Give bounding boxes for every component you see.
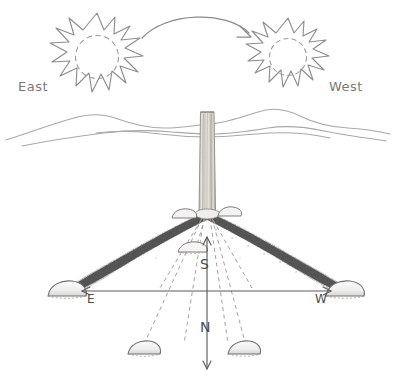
shadow-stick-compass-diagram: East West E W S N — [0, 0, 395, 388]
stone-icon-south-left — [128, 341, 161, 356]
sun-icon-west — [246, 18, 329, 87]
label-compass-south: S — [200, 256, 209, 272]
ray-inner-right — [210, 218, 228, 344]
diagram-canvas — [0, 0, 395, 388]
stone-icon-near-base-left — [172, 209, 197, 218]
arc-arrow-icon — [142, 17, 251, 38]
wooden-post-icon — [195, 112, 219, 219]
sun-icon-east — [50, 13, 143, 92]
mountain-range-icon — [6, 109, 390, 146]
label-compass-west: W — [315, 292, 327, 306]
stone-icon-east-end — [48, 281, 86, 298]
afternoon-shadow-band-core — [206, 215, 344, 292]
stone-icon-south-right — [228, 341, 261, 356]
label-compass-north: N — [200, 319, 211, 335]
stone-icon-near-base-right — [218, 207, 242, 216]
sky-group — [50, 13, 329, 92]
label-compass-east: E — [87, 292, 95, 306]
label-east-horizon: East — [18, 79, 48, 94]
label-west-horizon: West — [329, 79, 363, 94]
